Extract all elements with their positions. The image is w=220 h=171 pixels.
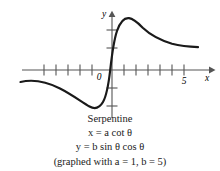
caption-title: Serpentine bbox=[0, 112, 220, 126]
x-axis-arrowhead bbox=[209, 67, 216, 74]
y-axis-arrowhead bbox=[109, 11, 116, 17]
x-tick-label-5: 5 bbox=[182, 76, 187, 86]
y-axis-label: y bbox=[101, 9, 107, 19]
figure-caption: Serpentine x = a cot θ y = b sin θ cos θ… bbox=[0, 112, 220, 169]
origin-label: 0 bbox=[97, 72, 102, 82]
caption-equation-y: y = b sin θ cos θ bbox=[0, 140, 220, 154]
x-axis-label: x bbox=[204, 73, 210, 83]
figure-page: 0 5 x y Serpentine x = a cot θ y = b sin… bbox=[0, 0, 220, 171]
caption-parameters: (graphed with a = 1, b = 5) bbox=[0, 155, 220, 169]
serpentine-curve bbox=[21, 18, 199, 108]
caption-equation-x: x = a cot θ bbox=[0, 126, 220, 140]
